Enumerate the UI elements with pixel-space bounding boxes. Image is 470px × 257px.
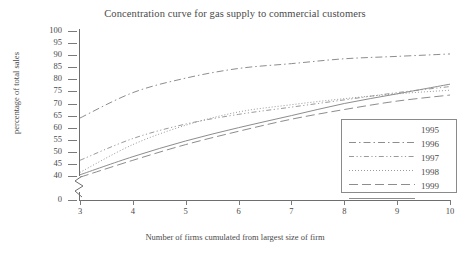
y-tick-label: 50	[18, 147, 62, 156]
chart-figure: Concentration curve for gas supply to co…	[0, 0, 470, 257]
y-tick-label: 0	[18, 195, 62, 204]
legend-label: 1996	[421, 139, 439, 149]
x-tick	[291, 200, 292, 205]
y-tick-label: 95	[18, 38, 62, 47]
x-tick-label: 9	[385, 206, 409, 216]
x-tick-label: 4	[121, 206, 145, 216]
x-axis-line	[79, 200, 451, 201]
legend-label: 1995	[421, 125, 439, 135]
x-tick-label: 3	[68, 206, 92, 216]
x-tick	[450, 200, 451, 205]
y-tick	[68, 140, 77, 141]
x-tick	[344, 200, 345, 205]
y-tick	[68, 128, 77, 129]
legend-label: 1998	[421, 167, 439, 177]
x-tick	[186, 200, 187, 205]
y-tick	[68, 43, 77, 44]
y-tick-label: 60	[18, 123, 62, 132]
y-tick	[68, 91, 77, 92]
x-tick-label: 5	[174, 206, 198, 216]
legend-item-1996[interactable]: 1996	[342, 138, 456, 152]
y-tick-label: 80	[18, 74, 62, 83]
legend-swatch-1995	[349, 130, 415, 132]
series-line-1995	[80, 54, 450, 118]
axis-break-icon	[72, 176, 88, 198]
y-tick-label: 45	[18, 159, 62, 168]
y-tick-label: 55	[18, 135, 62, 144]
y-tick-label: 90	[18, 50, 62, 59]
x-tick-label: 6	[227, 206, 251, 216]
legend-label: 1997	[421, 153, 439, 163]
legend-swatch-1997	[349, 158, 415, 160]
y-tick	[68, 67, 77, 68]
y-tick	[68, 152, 77, 153]
y-tick	[68, 104, 77, 105]
x-tick	[133, 200, 134, 205]
chart-title: Concentration curve for gas supply to co…	[0, 8, 470, 19]
legend-item-1998[interactable]: 1998	[342, 166, 456, 180]
legend-swatch-1999	[349, 186, 415, 188]
y-tick-label: 40	[18, 171, 62, 180]
legend-item-1995[interactable]: 1995	[342, 124, 456, 138]
x-axis-title: Number of firms cumulated from largest s…	[0, 232, 470, 242]
x-tick	[80, 200, 81, 205]
legend-swatch-1998	[349, 172, 415, 174]
y-tick	[68, 55, 77, 56]
legend-item-1997[interactable]: 1997	[342, 152, 456, 166]
y-tick	[68, 200, 77, 201]
y-tick-label: 85	[18, 62, 62, 71]
x-tick	[239, 200, 240, 205]
x-tick-label: 7	[279, 206, 303, 216]
y-tick	[68, 79, 77, 80]
x-tick-label: 10	[438, 206, 462, 216]
legend-item-1999[interactable]: 1999	[342, 180, 456, 194]
y-tick-label: 100	[18, 26, 62, 35]
x-tick	[397, 200, 398, 205]
y-axis-line	[79, 29, 80, 176]
legend-swatch-1996	[349, 144, 415, 146]
y-tick-label: 65	[18, 111, 62, 120]
y-tick-label: 70	[18, 99, 62, 108]
y-tick	[68, 31, 77, 32]
y-tick	[68, 116, 77, 117]
legend-label: 1999	[421, 181, 439, 191]
chart-legend: 19951996199719981999	[341, 119, 457, 193]
y-tick-label: 75	[18, 86, 62, 95]
y-tick	[68, 164, 77, 165]
x-tick-label: 8	[332, 206, 356, 216]
